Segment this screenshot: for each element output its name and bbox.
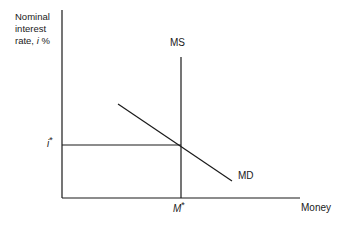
y-axis-label-line1: Nominal bbox=[15, 11, 50, 22]
equilibrium-interest-rate-star: * bbox=[49, 135, 53, 145]
money-demand-curve-label: MD bbox=[238, 170, 254, 182]
y-axis-label-line3-suffix: % bbox=[39, 35, 50, 46]
diagram-canvas bbox=[0, 0, 342, 233]
equilibrium-interest-rate-label: i* bbox=[47, 138, 53, 150]
y-axis-label: Nominalinterestrate, i % bbox=[15, 11, 50, 47]
y-axis-label-line3-prefix: rate, bbox=[15, 35, 37, 46]
money-demand-curve bbox=[118, 104, 232, 181]
equilibrium-money-quantity-label: M* bbox=[173, 203, 185, 215]
x-axis-label: Money bbox=[301, 202, 331, 214]
money-market-diagram: Nominalinterestrate, i % MS MD i* M* Mon… bbox=[0, 0, 342, 233]
money-supply-curve-label: MS bbox=[170, 37, 185, 49]
y-axis-label-line2: interest bbox=[15, 23, 46, 34]
equilibrium-money-quantity-star: * bbox=[181, 200, 185, 210]
